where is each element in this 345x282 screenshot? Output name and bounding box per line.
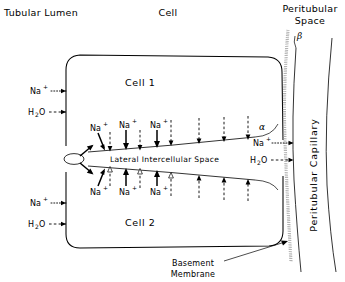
- capillary-inner-wall: [293, 48, 301, 272]
- arrowhead: [100, 144, 105, 150]
- label-alpha: α: [259, 122, 265, 132]
- label-na-charge-junction-upper: +: [103, 120, 108, 127]
- label-na-upper-1-charge: +: [132, 117, 137, 124]
- arrowhead: [197, 175, 202, 181]
- arrowhead: [222, 137, 227, 143]
- label-na-charge-lumen-lower: +: [43, 195, 48, 202]
- label-na-charge-capillary: +: [266, 135, 271, 142]
- label-cell-1: Cell 1: [125, 77, 155, 88]
- label-na-lower-2-base: Na: [150, 188, 161, 197]
- label-h2o-lumen-lower: H: [28, 220, 34, 229]
- label-na-lower-1-base: Na: [119, 188, 130, 197]
- label-na-charge-lumen-upper: +: [43, 83, 48, 90]
- label-na-junction-lower: Na: [90, 188, 101, 197]
- lumen-entry-na-lower: Na +: [30, 195, 66, 208]
- arrowhead: [281, 241, 288, 246]
- label-na-lower-1-charge: +: [132, 184, 137, 191]
- label-basement-membrane-line2: Membrane: [171, 270, 215, 279]
- arrowhead: [61, 201, 66, 205]
- label-tubular-lumen: Tubular Lumen: [3, 7, 78, 18]
- capillary-outer-wall: [326, 38, 336, 272]
- label-na-lower-2-charge: +: [163, 184, 168, 191]
- label-na-upper-2-base: Na: [150, 121, 161, 130]
- label-na-junction-upper: Na: [90, 124, 101, 133]
- basement-membrane-band: [284, 30, 291, 262]
- renal-transport-diagram: Tubular Lumen Cell Peritubular Space β α…: [0, 0, 345, 282]
- label-h2o-tail-lumen-upper: O: [39, 108, 45, 117]
- arrowhead: [289, 158, 294, 162]
- lumen-entry-h2o-lower: H 2 O: [28, 220, 66, 230]
- diagram-canvas: Tubular Lumen Cell Peritubular Space β α…: [0, 0, 345, 282]
- lateral-lower-leader-line: [255, 180, 278, 190]
- arrowhead: [61, 110, 66, 114]
- arrowhead: [222, 177, 227, 183]
- lumen-entry-na-upper: Na +: [30, 83, 66, 96]
- beta-leader-line: [294, 36, 296, 48]
- label-h2o-capillary: H: [250, 156, 256, 165]
- label-na-lumen-lower: Na: [30, 199, 41, 208]
- arrowhead: [61, 89, 66, 93]
- label-basement-membrane-line1: Basement: [172, 259, 214, 268]
- label-h2o-tail-lumen-lower: O: [39, 220, 45, 229]
- label-na-upper-1-base: Na: [119, 121, 130, 130]
- label-na-lumen-upper: Na: [30, 87, 41, 96]
- label-lateral-intercellular-space: Lateral Intercellular Space: [110, 155, 219, 164]
- label-peritubular-space-line1: Peritubular: [282, 3, 337, 14]
- label-cell-2: Cell 2: [125, 217, 155, 228]
- junction-na-label-lower: Na +: [90, 169, 108, 197]
- junction-na-arrows: [80, 145, 94, 175]
- label-na-upper-2-charge: +: [163, 117, 168, 124]
- upper-sodium-pump-arrows: Na+ Na + Na +: [119, 117, 168, 150]
- capillary-exit-h2o: H 2 O: [250, 156, 294, 166]
- label-h2o-tail-capillary: O: [261, 156, 267, 165]
- lower-sodium-pump-arrows: Na + Na +: [119, 168, 168, 197]
- arrowhead: [61, 222, 66, 226]
- label-na-capillary: Na: [253, 139, 264, 148]
- lumen-entry-h2o-upper: H 2 O: [28, 108, 66, 118]
- label-peritubular-space-line2: Space: [295, 15, 325, 26]
- label-h2o-lumen-upper: H: [28, 108, 34, 117]
- label-peritubular-capillary: Peritubular Capillary: [308, 118, 319, 232]
- label-beta: β: [296, 31, 302, 41]
- label-na-charge-junction-lower: +: [103, 184, 108, 191]
- arrowhead: [100, 169, 105, 176]
- label-cell-region: Cell: [159, 7, 178, 18]
- arrowhead: [169, 173, 174, 179]
- arrowhead: [138, 169, 143, 175]
